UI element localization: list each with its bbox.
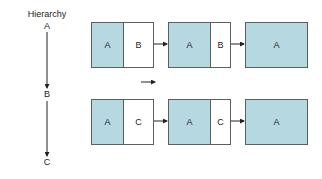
row2-stage1-cell-c: C bbox=[123, 100, 153, 144]
row1-stage3-cell-a: A bbox=[246, 23, 307, 67]
row1-stage2: A B bbox=[168, 22, 231, 68]
row2-stage1-cell-a: A bbox=[92, 100, 123, 144]
row2-stage2-cell-c: C bbox=[210, 100, 230, 144]
row2-stage2: A C bbox=[168, 99, 231, 145]
row1-stage1: A B bbox=[91, 22, 154, 68]
row1-stage1-cell-a: A bbox=[92, 23, 123, 67]
row1-stage2-cell-a: A bbox=[169, 23, 210, 67]
row1-stage3: A bbox=[245, 22, 308, 68]
row2-stage2-cell-a: A bbox=[169, 100, 210, 144]
row1-stage2-cell-b: B bbox=[210, 23, 230, 67]
row2-stage3: A bbox=[245, 99, 308, 145]
row2-stage3-cell-a: A bbox=[246, 100, 307, 144]
row2-stage1: A C bbox=[91, 99, 154, 145]
row1-stage1-cell-b: B bbox=[123, 23, 153, 67]
